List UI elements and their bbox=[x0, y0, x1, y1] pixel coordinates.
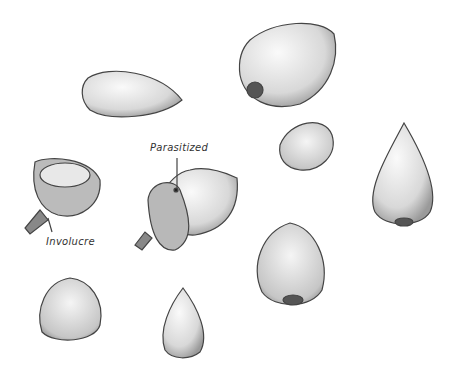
label-parasitized: Parasitized bbox=[150, 142, 208, 153]
nut-bottom-pointed bbox=[163, 288, 204, 358]
label-involucre: Involucre bbox=[46, 236, 95, 247]
involucre-stem bbox=[25, 210, 48, 234]
nut-tall-right bbox=[373, 123, 433, 224]
acorn-sketch-drawing bbox=[0, 0, 454, 384]
nut-bottom-left bbox=[40, 278, 101, 340]
nut-elongated bbox=[82, 71, 182, 117]
nut-small-middle bbox=[280, 123, 334, 171]
nut-round-lower bbox=[257, 223, 324, 305]
sketch-canvas: Parasitized Involucre bbox=[0, 0, 454, 384]
